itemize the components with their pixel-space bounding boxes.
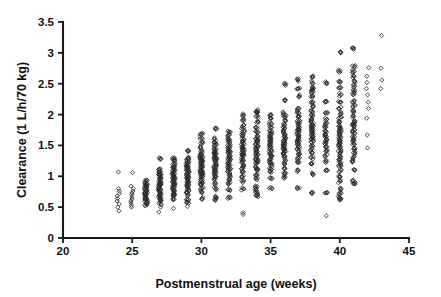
data-point-marker (365, 146, 369, 150)
data-point-marker (365, 80, 369, 84)
data-point-marker (171, 206, 175, 210)
data-point-marker (379, 87, 383, 91)
data-point-marker (157, 210, 161, 214)
data-point-marker (324, 214, 328, 218)
y-tick-label: 3 (48, 47, 54, 59)
data-point-marker (380, 78, 384, 82)
x-axis-title: Postmenstrual age (weeks) (155, 277, 316, 291)
data-point-marker (364, 87, 368, 91)
data-point-marker (379, 66, 383, 70)
y-tick-label: 2 (48, 109, 54, 121)
data-point-marker (131, 170, 135, 174)
data-point-marker (116, 170, 120, 174)
x-tick-label: 35 (264, 245, 277, 257)
x-tick-label: 40 (333, 245, 346, 257)
x-tick-label: 20 (57, 245, 70, 257)
data-point-marker (366, 93, 370, 97)
x-tick-label: 45 (403, 245, 416, 257)
x-tick-label: 30 (195, 245, 208, 257)
data-markers-layer (115, 33, 384, 217)
y-tick-label: 0.5 (38, 201, 55, 213)
plot-canvas: 20253035404500.511.522.533.5 Postmenstru… (0, 0, 441, 297)
x-tick-label: 25 (126, 245, 139, 257)
scatter-plot-figure: 20253035404500.511.522.533.5 Postmenstru… (0, 0, 441, 297)
data-point-marker (379, 33, 383, 37)
data-point-marker (367, 66, 371, 70)
y-axis-title: Clearance (1 L/h/70 kg) (15, 62, 29, 198)
y-tick-label: 1 (48, 170, 55, 182)
y-tick-label: 0 (48, 232, 54, 244)
y-tick-label: 1.5 (38, 139, 55, 151)
y-tick-label: 2.5 (38, 78, 55, 90)
data-point-marker (365, 133, 369, 137)
data-point-marker (365, 74, 369, 78)
data-point-marker (366, 100, 370, 104)
y-tick-label: 3.5 (38, 16, 55, 28)
data-point-marker (365, 116, 369, 120)
data-point-marker (366, 106, 370, 110)
